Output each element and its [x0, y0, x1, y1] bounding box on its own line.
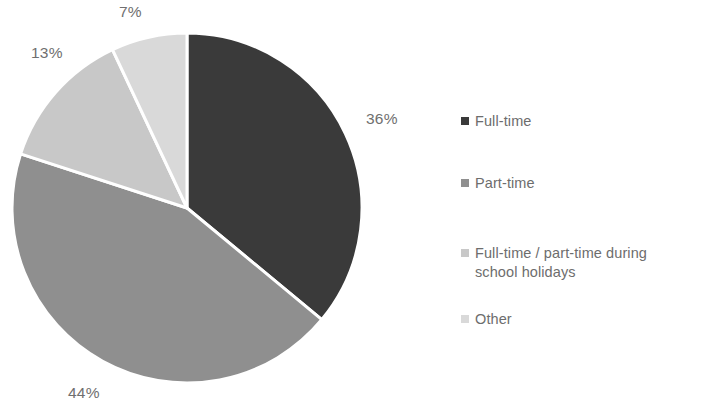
legend-item-part-time[interactable]: Part-time — [461, 174, 535, 193]
pie-chart-graphic — [0, 0, 440, 409]
slice-label-school-holidays: 13% — [31, 44, 63, 62]
slice-label-other: 7% — [119, 3, 142, 21]
slice-label-part-time: 44% — [68, 384, 100, 402]
legend-item-other[interactable]: Other — [461, 310, 512, 329]
legend-item-school-holidays[interactable]: Full-time / part-time during school holi… — [461, 244, 647, 282]
legend-swatch-icon — [461, 315, 469, 323]
legend-item-label: Full-time / part-time during school holi… — [475, 244, 647, 282]
legend-item-label: Full-time — [475, 112, 532, 131]
legend-item-label: Part-time — [475, 174, 535, 193]
legend-swatch-icon — [461, 249, 469, 257]
slice-label-full-time: 36% — [366, 110, 398, 128]
legend-swatch-icon — [461, 117, 469, 125]
legend-item-full-time[interactable]: Full-time — [461, 112, 532, 131]
pie-chart-figure: 36% 44% 13% 7% Full-time Part-time Full-… — [0, 0, 719, 409]
legend-swatch-icon — [461, 179, 469, 187]
legend-item-label: Other — [475, 310, 512, 329]
pie-slice-group — [12, 33, 362, 383]
pie-chart-plot-area: 36% 44% 13% 7% — [0, 0, 440, 409]
